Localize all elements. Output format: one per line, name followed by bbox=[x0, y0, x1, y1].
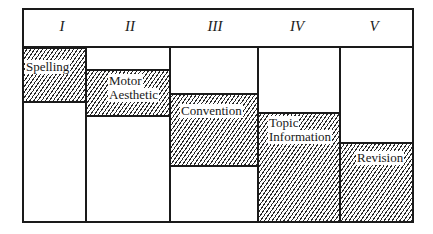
column-header-2: II bbox=[118, 18, 142, 35]
block-spelling bbox=[22, 47, 87, 103]
column-header-5: V bbox=[364, 18, 384, 35]
label-topic: Topic bbox=[268, 116, 299, 130]
label-spelling: Spelling bbox=[25, 60, 70, 74]
column-header-4: IV bbox=[282, 18, 312, 35]
label-motor: Motor bbox=[108, 74, 143, 88]
label-information: Information bbox=[268, 130, 332, 144]
column-header-1: I bbox=[52, 18, 72, 35]
label-revision: Revision bbox=[356, 151, 404, 165]
label-aesthetic: Aesthetic bbox=[108, 88, 159, 102]
column-header-3: III bbox=[200, 18, 230, 35]
label-convention: Convention bbox=[180, 104, 243, 118]
